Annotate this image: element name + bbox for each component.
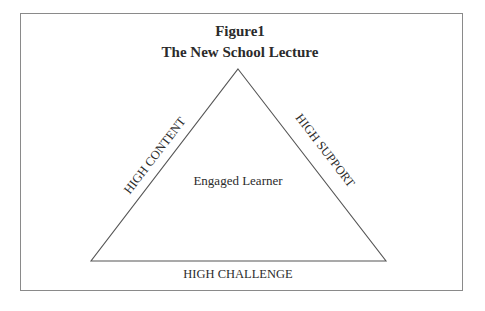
triangle-diagram: Figure1 The New School Lecture Engaged L… <box>0 0 485 311</box>
right-side-label: HIGH SUPPORT <box>293 111 358 190</box>
center-label: Engaged Learner <box>193 173 283 188</box>
figure-title: The New School Lecture <box>162 44 319 60</box>
base-label: HIGH CHALLENGE <box>183 267 293 281</box>
figure-number: Figure1 <box>215 23 265 39</box>
left-side-label: HIGH CONTENT <box>121 114 189 196</box>
